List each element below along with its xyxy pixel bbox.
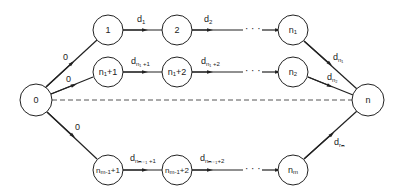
- edge-label: 0: [66, 74, 71, 84]
- edge-2-to-n1: · · · d2: [192, 14, 278, 34]
- edge-1-to-2: d1: [123, 14, 162, 30]
- node-n-sink: n: [352, 84, 384, 116]
- svg-text:dn₁ +2: dn₁ +2: [201, 56, 221, 67]
- node-n1-plus-1: n1+1: [93, 57, 123, 87]
- svg-text:drₘ: drₘ: [334, 137, 345, 148]
- node-n1: n1: [278, 15, 308, 45]
- svg-text:· · ·: · · ·: [245, 23, 261, 34]
- network-diagram: 0 0 0 d1 · · · d2 dn₁ +1 · · · dn₁ +2: [0, 0, 404, 196]
- node-nm: nm: [278, 155, 308, 185]
- edge-nm-to-n: drₘ: [304, 111, 357, 159]
- svg-text:dnₘ₋₁ +1: dnₘ₋₁ +1: [130, 153, 157, 164]
- node-nm1-plus-2: nm-1+2: [162, 155, 192, 185]
- node-2: 2: [162, 15, 192, 45]
- svg-text:2: 2: [174, 25, 179, 35]
- svg-text:d2: d2: [204, 14, 213, 25]
- svg-text:d1: d1: [137, 14, 146, 25]
- node-1: 1: [93, 15, 123, 45]
- svg-text:dn₁ +1: dn₁ +1: [131, 56, 151, 67]
- svg-text:n1+2: n1+2: [168, 67, 187, 77]
- svg-text:n: n: [365, 95, 370, 105]
- node-0: 0: [20, 84, 52, 116]
- svg-text:dn₁: dn₁: [333, 52, 343, 63]
- node-n1-plus-2: n1+2: [162, 57, 192, 87]
- edge-n2-to-n: dn₂: [308, 72, 353, 95]
- svg-text:0: 0: [33, 95, 38, 105]
- edge-label: 0: [63, 52, 68, 62]
- svg-text:1: 1: [105, 25, 110, 35]
- edge-0-to-nm1p1: 0: [47, 112, 97, 159]
- svg-text:dnₘ₋₁+2: dnₘ₋₁+2: [200, 153, 225, 164]
- svg-text:· · ·: · · ·: [245, 65, 261, 76]
- edge-n1p1-to-n1p2: dn₁ +1: [123, 56, 162, 72]
- svg-text:dn₂: dn₂: [327, 72, 338, 83]
- svg-text:n1+1: n1+1: [99, 67, 118, 77]
- svg-text:· · ·: · · ·: [245, 163, 261, 174]
- edge-nm1p1-to-nm1p2: dnₘ₋₁ +1: [123, 153, 162, 170]
- edge-0-to-1: 0: [46, 40, 97, 87]
- edge-nm1p2-to-nm: · · · dnₘ₋₁+2: [192, 153, 278, 174]
- edge-n1p2-to-n2: · · · dn₁ +2: [192, 56, 278, 76]
- edge-label: 0: [75, 122, 80, 132]
- node-nm1-plus-1: nm-1+1: [93, 155, 123, 185]
- node-n2: n2: [278, 57, 308, 87]
